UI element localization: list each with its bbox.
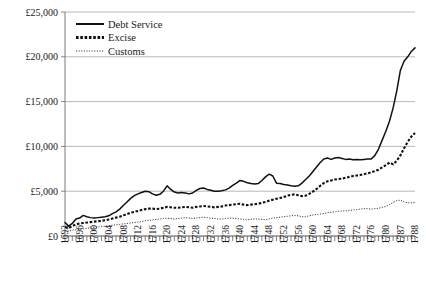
x-axis-tick-label: 1764	[323, 225, 333, 244]
y-axis-ticks	[61, 12, 65, 236]
chart-container: £0£5,000£10,000£15,000£20,000£25,000 169…	[0, 0, 426, 284]
y-axis-labels: £0£5,000£10,000£15,000£20,000£25,000	[26, 7, 59, 242]
chart-legend: Debt ServiceExciseCustoms	[76, 19, 163, 57]
x-axis-tick-label: 1787	[396, 225, 406, 244]
x-axis-tick-label: 1760	[308, 225, 318, 244]
x-axis-tick-label: 1720	[162, 225, 172, 244]
x-axis-tick-label: 1756	[294, 225, 304, 244]
x-axis-tick-label: 1732	[206, 225, 216, 244]
x-axis-tick-label: 1780	[381, 225, 391, 244]
data-series	[65, 48, 415, 231]
x-axis-tick-label: 1752	[279, 225, 289, 244]
y-axis-tick-label: £5,000	[31, 186, 59, 197]
x-axis-tick-label: 1696	[75, 225, 85, 244]
x-axis-tick-label: 1704	[104, 225, 114, 244]
x-axis-tick-label: 1788	[410, 225, 420, 244]
y-axis-tick-label: £20,000	[26, 51, 59, 62]
y-axis-tick-label: £10,000	[26, 141, 59, 152]
x-axis-tick-label: 1744	[250, 225, 260, 244]
x-axis-tick-label: 1724	[177, 225, 187, 244]
x-axis-tick-label: 1776	[366, 225, 376, 244]
x-axis-tick-label: 1736	[221, 225, 231, 244]
series-line-debt-service	[65, 48, 415, 226]
x-axis-tick-label: 1772	[352, 225, 362, 244]
x-axis-tick-label: 1768	[337, 225, 347, 244]
line-chart: £0£5,000£10,000£15,000£20,000£25,000 169…	[0, 0, 426, 284]
x-axis-tick-label: 1748	[264, 225, 274, 244]
x-axis-tick-label: 1712	[133, 225, 143, 244]
x-axis-tick-label: 1708	[119, 225, 129, 244]
legend-label-debt-service: Debt Service	[108, 19, 163, 30]
y-axis-tick-label: £0	[48, 231, 58, 242]
legend-label-customs: Customs	[108, 46, 145, 57]
x-axis-labels: 1692169617001704170817121716172017241728…	[60, 225, 420, 244]
y-axis-tick-label: £15,000	[26, 96, 59, 107]
x-axis-tick-label: 1740	[235, 225, 245, 244]
x-axis-tick-label: 1728	[191, 225, 201, 244]
y-axis-tick-label: £25,000	[26, 7, 59, 18]
x-axis-tick-label: 1716	[148, 225, 158, 244]
legend-label-excise: Excise	[108, 32, 136, 43]
